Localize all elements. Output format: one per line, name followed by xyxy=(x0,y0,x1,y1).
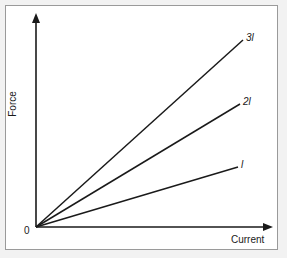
plot-frame xyxy=(5,5,278,250)
origin-label: 0 xyxy=(24,226,30,236)
y-axis-title: Force xyxy=(8,80,18,128)
x-axis-title: Current xyxy=(231,235,264,245)
series-label-l: l xyxy=(241,160,243,170)
series-label-3l: 3l xyxy=(246,33,254,43)
series-label-2l: 2l xyxy=(243,97,251,107)
figure-canvas: Force Current 0 3l 2l l xyxy=(0,0,287,258)
